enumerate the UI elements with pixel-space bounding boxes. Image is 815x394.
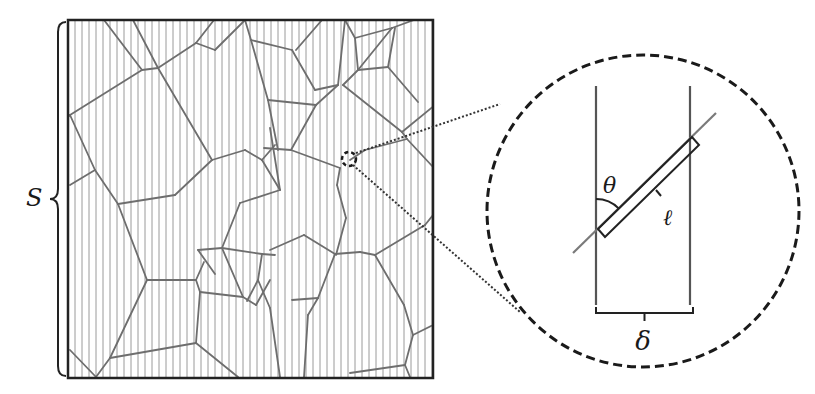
cell-edge [196, 43, 215, 50]
cell-edge [335, 252, 360, 254]
zoom-inset: θ ℓ δ [487, 55, 799, 367]
domain-size-brace [50, 22, 66, 376]
cell-edge [222, 248, 243, 297]
magnifier-marker [342, 152, 356, 166]
cell-edge [196, 280, 200, 292]
cell-edge [343, 70, 358, 85]
cell-edge [264, 148, 291, 150]
cell-edge [142, 68, 158, 70]
voronoi-cell-edges [68, 20, 435, 377]
cell-edge [291, 150, 340, 168]
cell-edge [388, 28, 395, 67]
cell-edge [251, 40, 268, 100]
cell-edge [296, 20, 322, 50]
cell-edge [215, 20, 245, 50]
cell-edge [337, 168, 340, 185]
cell-edge [110, 280, 147, 358]
cell-edge [240, 190, 280, 203]
cell-edge [292, 298, 318, 300]
cell-edge [413, 325, 433, 335]
cell-edge [95, 170, 118, 204]
cell-edge [258, 254, 262, 280]
cell-edge [262, 254, 275, 255]
cell-edge [222, 203, 240, 248]
cell-edge [343, 85, 402, 132]
segment-length-label: ℓ [663, 205, 673, 230]
cell-edge [405, 335, 413, 365]
cell-edge [118, 204, 147, 280]
cell-edge [405, 365, 410, 377]
cell-edge [196, 262, 204, 280]
spacing-label: δ [635, 326, 651, 356]
cell-edge [355, 28, 392, 38]
domain-panel: S [26, 20, 435, 378]
cell-edge [358, 28, 392, 70]
domain-size-label: S [26, 184, 42, 212]
cell-edge [292, 50, 315, 90]
inset-background [487, 55, 799, 367]
voronoi-zoom-diagram: S θ ℓ δ [0, 0, 815, 394]
cell-edge [196, 292, 200, 343]
cell-edge [388, 67, 418, 102]
cell-edge [196, 20, 214, 43]
cell-edge [158, 43, 196, 68]
cell-edge [245, 150, 262, 160]
cell-edge [247, 280, 258, 301]
cell-edge [110, 343, 196, 358]
cell-edge [222, 248, 262, 254]
cell-edge [291, 105, 316, 150]
cell-edge [70, 350, 96, 377]
cell-edge [196, 343, 238, 377]
cell-edge [198, 248, 222, 250]
angle-label: θ [603, 173, 616, 198]
cell-edge [345, 20, 355, 38]
cell-edge [365, 139, 407, 150]
cell-edge [404, 305, 413, 335]
